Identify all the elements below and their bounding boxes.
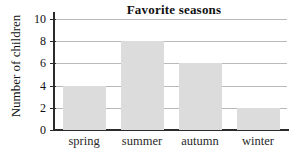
gridline: [55, 63, 287, 64]
y-axis-tick-label: 10: [20, 13, 46, 25]
bar: [179, 63, 222, 130]
x-axis-category-label: spring: [55, 134, 113, 148]
plot-area: 0246810: [55, 19, 287, 130]
y-axis-tick-mark: [50, 130, 56, 131]
y-axis-tick-label: 0: [20, 124, 46, 136]
gridline: [55, 41, 287, 42]
y-axis-tick-label: 6: [20, 57, 46, 69]
x-axis-category-label: summer: [113, 134, 171, 148]
y-axis-tick-label: 2: [20, 102, 46, 114]
bar: [63, 86, 106, 130]
bar: [237, 108, 280, 130]
gridline: [55, 19, 287, 20]
x-axis-category-label: autumn: [171, 134, 229, 148]
y-axis-tick-mark: [50, 41, 56, 42]
y-axis-tick-mark: [50, 108, 56, 109]
y-axis-tick-mark: [50, 19, 56, 20]
bar-chart-figure: Favorite seasons Number of children 0246…: [0, 0, 290, 165]
y-axis-tick-label: 4: [20, 80, 46, 92]
bar: [121, 41, 164, 130]
x-axis-category-label: winter: [229, 134, 287, 148]
y-axis-tick-mark: [50, 86, 56, 87]
chart-title: Favorite seasons: [60, 2, 288, 18]
y-axis-tick-label: 8: [20, 35, 46, 47]
y-axis-tick-mark: [50, 63, 56, 64]
